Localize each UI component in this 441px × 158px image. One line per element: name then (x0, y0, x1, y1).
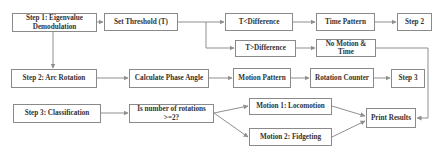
t-less-than-difference-box: T<Difference (225, 13, 293, 31)
motion-pattern-box: Motion Pattern (233, 68, 291, 88)
decision-rotations-box: Is number of rotations >=2? (129, 104, 214, 123)
set-threshold-box: Set Threshold (T) (104, 13, 178, 31)
step2-end-box: Step 2 (397, 13, 432, 31)
t-greater-than-difference-box: T>Difference (235, 40, 296, 57)
flowchart: Step 1: Eigenvalue Demodulation Set Thre… (0, 0, 441, 158)
calculate-phase-angle-box: Calculate Phase Angle (129, 69, 209, 88)
motion2-fidgeting-box: Motion 2: Fidgeting (249, 128, 332, 146)
time-pattern-box: Time Pattern (316, 13, 375, 31)
step2-arc-rotation-box: Step 2: Arc Rotation (11, 69, 97, 88)
no-motion-time-box: No Motion & Time (316, 39, 376, 57)
motion1-locomotion-box: Motion 1: Locomotion (249, 98, 332, 115)
step3-classification-box: Step 3: Classification (13, 104, 101, 123)
step3-end-box: Step 3 (391, 69, 425, 88)
print-results-box: Print Results (366, 108, 416, 128)
step1-eigenvalue-demodulation-box: Step 1: Eigenvalue Demodulation (12, 13, 97, 32)
rotation-counter-box: Rotation Counter (310, 68, 374, 88)
